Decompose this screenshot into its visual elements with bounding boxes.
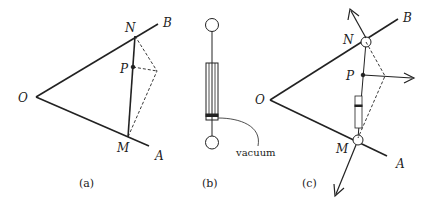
ray-oa: [36, 97, 149, 146]
label-p-c: P: [345, 69, 355, 83]
caption-a: (a): [79, 177, 94, 190]
top-ring: [206, 19, 219, 32]
panel-a: [36, 24, 158, 146]
dashed-triangle: [128, 36, 157, 137]
vacuum-pointer: [218, 118, 258, 146]
caption-b: (b): [202, 177, 218, 190]
vacuum-label: vacuum: [235, 147, 276, 158]
force-arrow-p: [363, 75, 412, 78]
label-p-a: P: [119, 62, 129, 76]
figure: O B A N M P (a) vacuum (b) O B A N: [0, 0, 430, 203]
panel-b: [206, 19, 259, 150]
panel-c: [270, 9, 414, 196]
ring-m: [353, 135, 363, 145]
dashed-p-line: [133, 67, 157, 71]
caption-c: (c): [302, 177, 317, 190]
vacuum-cylinder: [355, 96, 362, 128]
ray-oa: [270, 100, 387, 156]
ray-ob: [270, 19, 398, 100]
ray-ob: [36, 24, 158, 97]
label-b-a: B: [162, 16, 172, 30]
label-a-a: A: [154, 149, 164, 163]
piston-head: [206, 114, 218, 117]
label-o-a: O: [18, 91, 28, 105]
label-a-c: A: [395, 157, 405, 171]
bottom-ring: [206, 136, 219, 149]
label-o-c: O: [255, 93, 265, 107]
rod-mn: [128, 36, 135, 137]
label-m-a: M: [116, 141, 130, 155]
point-p: [131, 65, 135, 69]
label-n-c: N: [342, 33, 354, 47]
label-b-c: B: [402, 11, 412, 25]
label-m-c: M: [335, 142, 349, 156]
label-n-a: N: [124, 21, 136, 35]
cylinder-piston: [355, 105, 362, 107]
